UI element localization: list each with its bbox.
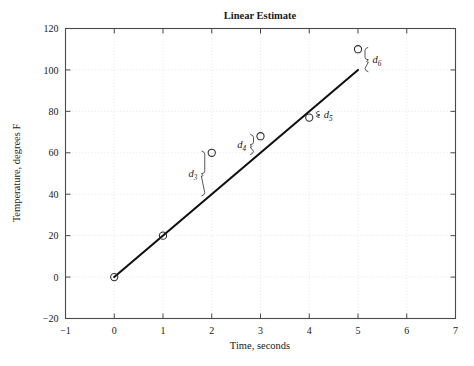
x-tick-label: 3 [258,325,263,336]
y-tick-label: 40 [49,189,59,200]
y-axis-title: Temperature, degrees F [11,124,22,223]
y-tick-label: −20 [43,313,59,324]
y-tick-label: 20 [49,230,59,241]
y-tick-label: 80 [49,106,59,117]
chart-figure: Linear Estimate −101234567 −200204060801… [0,0,474,366]
y-tick-label: 100 [44,65,59,76]
chart-background [0,0,474,366]
y-tick-label: 60 [49,147,59,158]
linear-estimate-chart: Linear Estimate −101234567 −200204060801… [0,0,474,366]
x-tick-label: 0 [112,325,117,336]
x-tick-label: 1 [161,325,166,336]
residual-label-subscript: 5 [329,115,333,123]
residual-label-subscript: 3 [193,174,198,182]
x-tick-label: 5 [356,325,361,336]
chart-title: Linear Estimate [224,10,297,21]
y-tick-label: 0 [54,272,59,283]
x-tick-label: −1 [60,325,71,336]
residual-label-subscript: 6 [378,60,382,68]
residual-label-subscript: 4 [243,145,247,153]
x-tick-label: 2 [209,325,214,336]
y-tick-label: 120 [44,23,59,34]
x-tick-label: 6 [404,325,409,336]
x-tick-label: 7 [453,325,458,336]
x-axis-title: Time, seconds [230,340,290,351]
x-tick-label: 4 [307,325,312,336]
